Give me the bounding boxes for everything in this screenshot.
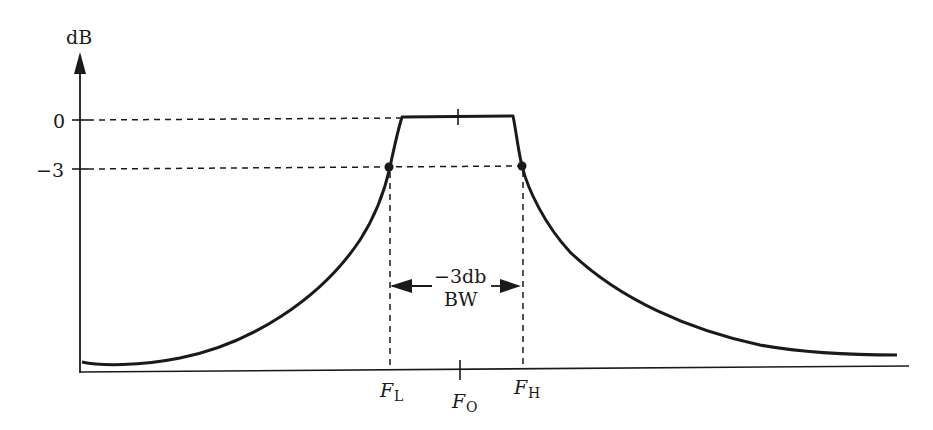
x-tick-FL: F L xyxy=(379,379,403,404)
y-tick-minus3-label: −3 xyxy=(36,159,64,181)
x-tick-FO: F O xyxy=(451,390,477,415)
minus3db-point-low xyxy=(385,163,394,172)
response-curve xyxy=(82,116,897,365)
filter-response-diagram: dB 0 −3 −3db BW F L F O F H xyxy=(0,0,933,430)
y-axis xyxy=(72,52,88,373)
minus3db-point-high xyxy=(518,162,527,171)
arrow-left-icon xyxy=(390,279,412,293)
bandwidth-label-line1: −3db xyxy=(434,265,486,287)
svg-text:O: O xyxy=(466,399,477,415)
arrow-right-icon xyxy=(500,279,521,293)
y-axis-label: dB xyxy=(66,26,92,48)
svg-text:F: F xyxy=(379,379,394,401)
x-axis xyxy=(80,360,909,380)
svg-text:F: F xyxy=(513,376,528,398)
x-tick-FH: F H xyxy=(513,376,540,401)
y-tick-0-label: 0 xyxy=(53,110,65,132)
bandwidth-label-line2: BW xyxy=(444,288,478,310)
y-axis-arrow-icon xyxy=(74,52,86,74)
svg-text:H: H xyxy=(528,385,540,401)
svg-text:L: L xyxy=(394,388,403,404)
svg-text:F: F xyxy=(451,390,466,412)
reference-lines xyxy=(88,118,523,370)
